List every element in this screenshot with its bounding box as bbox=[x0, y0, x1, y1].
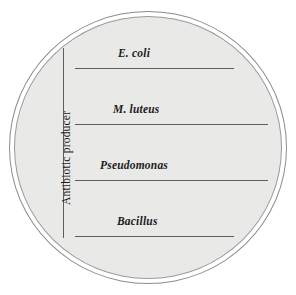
antibiotic-producer-label: Antibiotic producer bbox=[60, 111, 72, 205]
organism-label-e-coli: E. coli bbox=[118, 47, 150, 59]
streak-line-bacillus bbox=[75, 236, 234, 237]
organism-label-bacillus: Bacillus bbox=[117, 215, 158, 227]
organism-label-m-luteus: M. luteus bbox=[113, 103, 160, 115]
streak-line-e-coli bbox=[75, 68, 234, 69]
streak-line-m-luteus bbox=[75, 124, 268, 125]
organism-label-pseudomonas: Pseudomonas bbox=[100, 159, 168, 171]
petri-dish-figure: Antibiotic producer E. coli M. luteus Ps… bbox=[0, 0, 296, 295]
streak-line-pseudomonas bbox=[75, 180, 268, 181]
